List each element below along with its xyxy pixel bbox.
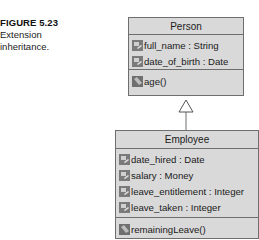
attribute-text: leave_entitlement : Integer (131, 186, 244, 197)
attribute-icon (119, 186, 130, 197)
attribute-row[interactable]: date_hired : Date (116, 151, 258, 167)
operation-text: age() (144, 76, 166, 87)
attribute-icon (119, 170, 130, 181)
attribute-row[interactable]: salary : Money (116, 167, 258, 183)
class-name: Person (129, 18, 243, 35)
class-name: Employee (116, 131, 258, 149)
attribute-text: leave_taken : Integer (131, 202, 221, 213)
operation-row[interactable]: remainingLeave() (116, 221, 258, 237)
attribute-icon (132, 56, 143, 67)
attribute-row[interactable]: full_name : String (129, 37, 243, 53)
attribute-compartment: date_hired : Date salary : Money leave_e… (116, 149, 258, 218)
operation-text: remainingLeave() (131, 224, 206, 235)
attribute-icon (119, 154, 130, 165)
attribute-row[interactable]: leave_entitlement : Integer (116, 183, 258, 199)
operation-compartment: remainingLeave() (116, 218, 258, 237)
attribute-icon (119, 202, 130, 213)
attribute-text: salary : Money (131, 170, 193, 181)
operation-icon (119, 224, 130, 235)
attribute-compartment: full_name : String date_of_birth : Date (129, 35, 243, 70)
attribute-row[interactable]: leave_taken : Integer (116, 199, 258, 215)
attribute-text: date_hired : Date (131, 154, 205, 165)
operation-icon (132, 76, 143, 87)
attribute-icon (132, 40, 143, 51)
class-person[interactable]: Person full_name : String date_of_birth … (128, 17, 244, 96)
attribute-row[interactable]: date_of_birth : Date (129, 53, 243, 69)
class-employee[interactable]: Employee date_hired : Date salary : Mone… (115, 130, 259, 239)
operation-row[interactable]: age() (129, 73, 243, 89)
attribute-text: full_name : String (144, 40, 219, 51)
operation-compartment: age() (129, 70, 243, 89)
attribute-text: date_of_birth : Date (144, 56, 228, 67)
